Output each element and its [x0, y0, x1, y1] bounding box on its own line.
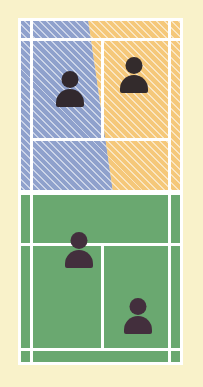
- near-left-doubles-sideline: [18, 192, 21, 365]
- right-doubles-sideline: [180, 18, 183, 192]
- far-baseline: [18, 18, 183, 21]
- net-line: [18, 190, 183, 195]
- near-right-singles-sideline: [168, 192, 171, 365]
- near-center-service-line: [101, 243, 104, 348]
- near-half: [18, 192, 183, 365]
- player-near-right: [121, 298, 155, 334]
- near-right-doubles-sideline: [180, 192, 183, 365]
- near-left-singles-sideline: [30, 192, 33, 365]
- court-diagram: [0, 0, 203, 387]
- right-singles-sideline: [168, 18, 171, 192]
- far-half: [18, 18, 183, 192]
- player-head-icon: [71, 232, 88, 249]
- left-doubles-sideline: [18, 18, 21, 192]
- player-body-icon: [120, 75, 148, 93]
- player-head-icon: [130, 298, 147, 315]
- player-far-left: [53, 71, 87, 107]
- far-center-line: [101, 38, 104, 139]
- player-far-right: [117, 57, 151, 93]
- player-body-icon: [56, 89, 84, 107]
- near-back-edge: [18, 362, 183, 365]
- near-baseline: [18, 348, 183, 351]
- player-body-icon: [124, 316, 152, 334]
- player-head-icon: [126, 57, 143, 74]
- player-body-icon: [65, 250, 93, 268]
- player-head-icon: [62, 71, 79, 88]
- left-singles-sideline: [30, 18, 33, 192]
- player-near-left: [62, 232, 96, 268]
